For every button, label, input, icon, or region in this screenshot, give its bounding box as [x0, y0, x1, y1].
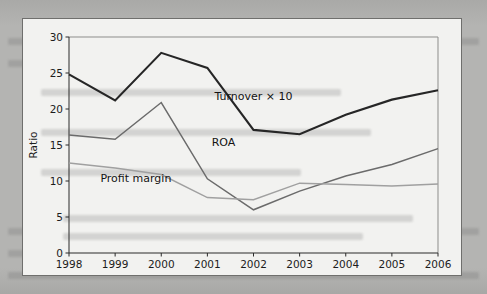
- x-tick-label: 1999: [102, 258, 129, 270]
- x-tick-label: 2000: [148, 258, 175, 270]
- series-annotation: Turnover × 10: [213, 90, 292, 103]
- series-line: [69, 103, 438, 210]
- line-chart: 051015202530 199819992000200120022003200…: [23, 19, 462, 276]
- series-annotation: ROA: [212, 136, 236, 149]
- x-axis: 199819992000200120022003200420052006: [56, 253, 452, 270]
- chart-panel: 051015202530 199819992000200120022003200…: [22, 18, 462, 276]
- y-tick-label: 0: [56, 247, 63, 259]
- x-tick-label: 1998: [56, 258, 83, 270]
- series-group: [69, 53, 438, 210]
- x-tick-label: 2006: [425, 258, 452, 270]
- y-tick-label: 20: [50, 103, 63, 115]
- x-tick-label: 2005: [379, 258, 406, 270]
- x-tick-label: 2001: [194, 258, 221, 270]
- y-tick-label: 30: [50, 31, 63, 43]
- x-tick-label: 2003: [286, 258, 313, 270]
- y-tick-label: 15: [50, 139, 63, 151]
- series-annotation: Profit margin: [100, 172, 171, 185]
- y-axis-label: Ratio: [27, 132, 39, 159]
- x-tick-label: 2002: [240, 258, 267, 270]
- x-tick-label: 2004: [332, 258, 359, 270]
- y-axis-title: Ratio: [27, 132, 39, 159]
- y-tick-label: 5: [56, 211, 63, 223]
- y-tick-label: 25: [50, 67, 63, 79]
- plot-frame: [69, 37, 438, 253]
- y-tick-label: 10: [50, 175, 63, 187]
- y-axis: 051015202530: [50, 31, 69, 259]
